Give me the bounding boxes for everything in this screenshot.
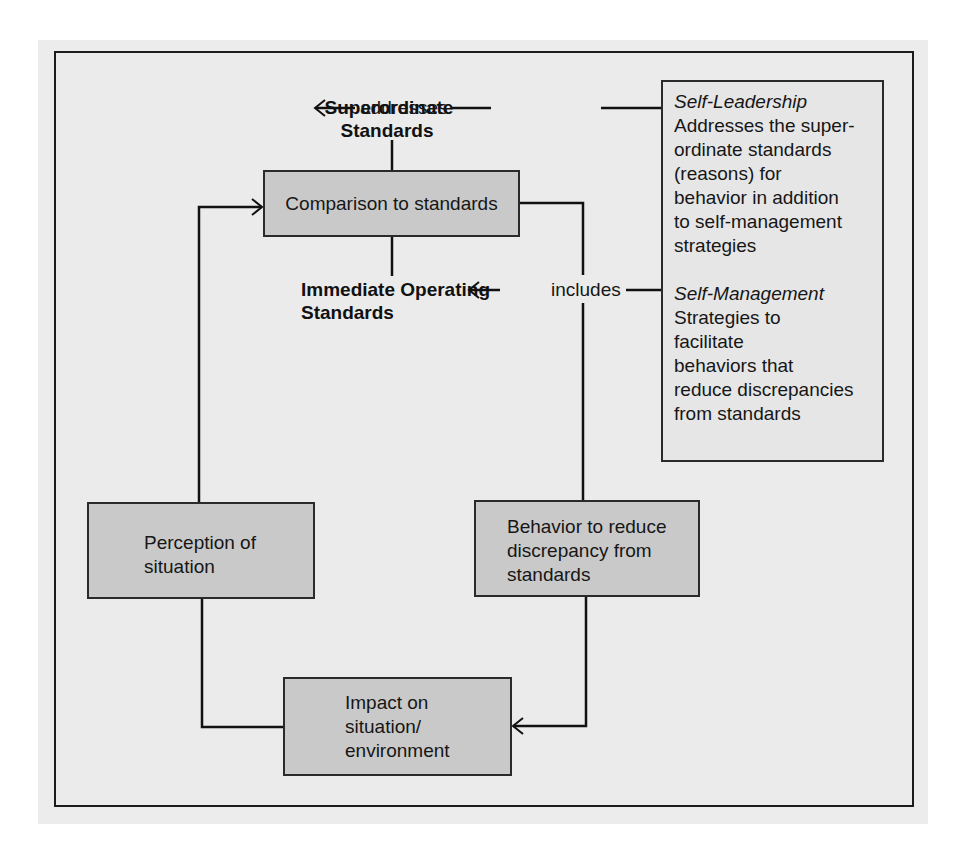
includes-label: includes [551,278,621,301]
self-leadership-title: Self-Leadership [674,90,874,114]
self-management-text-line: facilitate [674,330,874,354]
impact-line1: Impact on [345,691,510,715]
impact-line3: environment [345,739,510,763]
self-management-title: Self-Management [674,282,874,306]
self-management-text-line: from standards [674,402,874,426]
behavior-line2: discrepancy from [507,539,698,563]
impact-line2: situation/ [345,715,510,739]
immediate-line1: Immediate Operating [301,278,490,301]
self-leadership-text-line: behavior in addition [674,186,874,210]
behavior-line1: Behavior to reduce [507,515,698,539]
superordinate-line2: Standards [320,119,454,142]
self-leadership-text-line: (reasons) for [674,162,874,186]
perception-line1: Perception of [144,531,313,555]
self-leadership-text-line: to self-management [674,210,874,234]
self-leadership-text-line: strategies [674,234,874,258]
immediate-operating-standards-label: Immediate Operating Standards [301,278,490,324]
perception-of-situation-box: Perception of situation [87,502,315,599]
perception-line2: situation [144,555,313,579]
addresses-label: addresses [360,96,448,119]
self-management-text-line: reduce discrepancies [674,378,874,402]
impact-on-situation-box: Impact on situation/ environment [283,677,512,776]
self-management-section: Self-Management Strategies to facilitate… [674,282,874,426]
self-management-text-line: Strategies to [674,306,874,330]
behavior-to-reduce-discrepancy-box: Behavior to reduce discrepancy from stan… [474,500,700,597]
comparison-label: Comparison to standards [285,192,497,216]
immediate-line2: Standards [301,301,490,324]
self-management-text-line: behaviors that [674,354,874,378]
self-leadership-text-line: Addresses the super- [674,114,874,138]
self-leadership-panel: Self-Leadership Addresses the super- ord… [661,80,884,462]
comparison-to-standards-box: Comparison to standards [263,170,520,237]
self-leadership-text-line: ordinate standards [674,138,874,162]
behavior-line3: standards [507,563,698,587]
